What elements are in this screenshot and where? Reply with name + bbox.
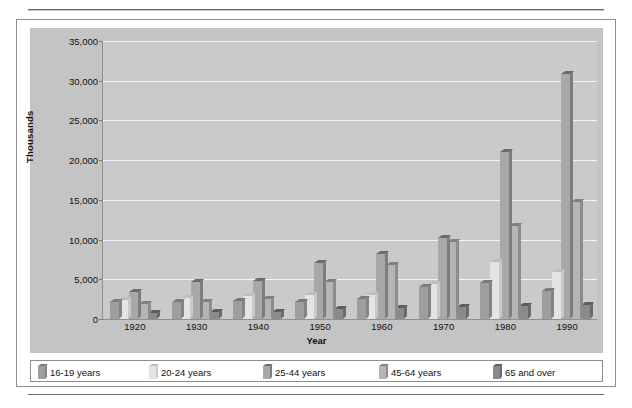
- y-axis-tick-labels: 05,00010,00015,00020,00025,00030,00035,0…: [40, 28, 98, 353]
- legend-item[interactable]: 20-24 years: [149, 364, 211, 380]
- legend-item[interactable]: 65 and over: [493, 364, 555, 380]
- legend-item[interactable]: 45-64 years: [379, 364, 441, 380]
- bar-face: [542, 291, 551, 319]
- x-axis-tick-label: 1920: [124, 321, 145, 332]
- bar-groups: [103, 41, 597, 319]
- bar-side: [138, 289, 141, 319]
- bar-side: [190, 295, 193, 319]
- plot-area: [102, 41, 597, 320]
- legend-label: 65 and over: [505, 367, 555, 378]
- y-axis-tick-label: 25,000: [69, 115, 98, 126]
- y-axis-tick-label: 30,000: [69, 75, 98, 86]
- y-axis-tick-label: 10,000: [69, 234, 98, 245]
- bar: [172, 302, 181, 319]
- y-axis-tick-label: 0: [93, 314, 98, 325]
- bar-group: [357, 41, 405, 319]
- bar-face: [480, 283, 489, 319]
- x-axis-tick-label: 1930: [186, 321, 207, 332]
- bar-side: [271, 296, 274, 319]
- y-axis-tickmark: [99, 319, 103, 320]
- bar-face: [233, 301, 242, 319]
- top-divider-rule: [28, 9, 604, 10]
- bottom-divider-rule: [28, 394, 604, 395]
- y-axis-tick-label: 35,000: [69, 36, 98, 47]
- bar-side: [242, 298, 245, 319]
- chart-figure: Thousands 05,00010,00015,00020,00025,000…: [0, 0, 632, 408]
- chart-legend: 16-19 years20-24 years25-44 years45-64 y…: [30, 360, 603, 382]
- gridline: [103, 319, 597, 320]
- bar-side: [333, 279, 336, 319]
- bar-group: [295, 41, 343, 319]
- legend-swatch: [263, 366, 270, 379]
- bar: [542, 291, 551, 319]
- bar-side: [314, 292, 317, 319]
- bar-side: [323, 260, 326, 319]
- bar-group: [110, 41, 158, 319]
- legend-label: 16-19 years: [50, 367, 100, 378]
- legend-swatch: [38, 366, 45, 379]
- x-axis-tick-label: 1980: [495, 321, 516, 332]
- bar-side: [395, 262, 398, 319]
- bar-face: [172, 302, 181, 319]
- bar-side: [580, 199, 583, 319]
- y-axis-tick-label: 15,000: [69, 194, 98, 205]
- bar-group: [480, 41, 528, 319]
- bar-side: [262, 278, 265, 319]
- chart-plot-card: Thousands 05,00010,00015,00020,00025,000…: [30, 28, 603, 353]
- bar-side: [447, 235, 450, 319]
- bar-side: [509, 149, 512, 319]
- legend-label: 25-44 years: [275, 367, 325, 378]
- legend-swatch: [493, 366, 500, 379]
- bar-side: [489, 280, 492, 319]
- bar: [110, 302, 119, 319]
- bar: [419, 287, 428, 319]
- bar: [357, 299, 366, 319]
- x-axis-title: Year: [30, 335, 603, 346]
- y-axis-title: Thousands: [24, 43, 35, 163]
- x-axis-tick-labels: 19201930194019501960197019801990: [102, 321, 597, 335]
- bar-face: [357, 299, 366, 319]
- bar-side: [551, 288, 554, 319]
- bar-side: [437, 281, 440, 319]
- bar-side: [456, 239, 459, 319]
- x-axis-tick-label: 1990: [557, 321, 578, 332]
- bar-side: [209, 299, 212, 319]
- x-axis-tick-label: 1950: [310, 321, 331, 332]
- bar-side: [570, 71, 573, 319]
- y-axis-tick-label: 20,000: [69, 155, 98, 166]
- legend-label: 45-64 years: [391, 367, 441, 378]
- bar-side: [200, 279, 203, 319]
- bar: [233, 301, 242, 319]
- legend-swatch: [379, 366, 386, 379]
- bar-side: [518, 223, 521, 319]
- bar-group: [172, 41, 220, 319]
- bar-side: [119, 299, 122, 319]
- x-axis-tick-label: 1960: [371, 321, 392, 332]
- y-axis-tick-label: 5,000: [74, 274, 98, 285]
- bar-group: [542, 41, 590, 319]
- bar-side: [428, 284, 431, 319]
- legend-label: 20-24 years: [161, 367, 211, 378]
- bar-group: [233, 41, 281, 319]
- legend-item[interactable]: 16-19 years: [38, 364, 100, 380]
- bar-side: [366, 296, 369, 319]
- bar-side: [561, 269, 564, 319]
- x-axis-tick-label: 1940: [248, 321, 269, 332]
- bar-face: [295, 302, 304, 319]
- bar-face: [419, 287, 428, 319]
- bar-face: [110, 302, 119, 319]
- legend-item[interactable]: 25-44 years: [263, 364, 325, 380]
- x-axis-tick-label: 1970: [433, 321, 454, 332]
- bar-side: [499, 259, 502, 319]
- bar: [480, 283, 489, 319]
- bar-group: [419, 41, 467, 319]
- chart-frame: Thousands 05,00010,00015,00020,00025,000…: [16, 19, 616, 387]
- bar-side: [252, 293, 255, 319]
- bar: [295, 302, 304, 319]
- bar-side: [385, 251, 388, 319]
- legend-swatch: [149, 366, 156, 379]
